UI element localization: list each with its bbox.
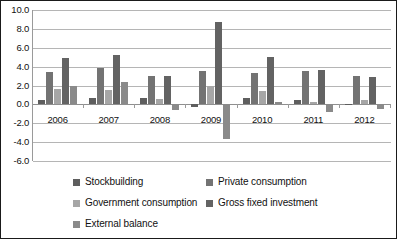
legend-row: StockbuildingPrivate consumption <box>1 173 398 194</box>
legend-swatch-icon <box>73 179 80 186</box>
bar[interactable] <box>318 70 325 104</box>
x-tick-label: 2008 <box>134 115 185 125</box>
y-tick-label: 10.0 <box>11 5 29 15</box>
x-tick <box>390 104 391 108</box>
bar[interactable] <box>164 76 171 104</box>
bar[interactable] <box>361 100 368 105</box>
legend-item[interactable]: Government consumption <box>73 198 197 208</box>
chart-legend: StockbuildingPrivate consumptionGovernme… <box>1 173 398 239</box>
bar[interactable] <box>275 102 282 105</box>
bar[interactable] <box>199 71 206 104</box>
bar[interactable] <box>267 57 274 104</box>
bar[interactable] <box>326 104 333 112</box>
x-tick <box>83 104 84 108</box>
bar[interactable] <box>46 72 53 104</box>
bar[interactable] <box>243 98 250 105</box>
legend-row: External balance <box>1 215 398 236</box>
y-tick-label: -2.0 <box>13 118 29 128</box>
legend-row: Government consumptionGross fixed invest… <box>1 194 398 215</box>
bar-group <box>289 10 340 161</box>
bar[interactable] <box>121 82 128 105</box>
bar-group <box>340 10 391 161</box>
bar[interactable] <box>207 86 214 105</box>
bar[interactable] <box>97 68 104 105</box>
bar[interactable] <box>140 98 147 105</box>
bar[interactable] <box>38 100 45 105</box>
bar[interactable] <box>54 89 61 104</box>
plot-area-wrapper: 10.08.06.04.02.00.0-2.0-4.0-6.0 20062007… <box>1 1 398 171</box>
legend-swatch-icon <box>73 221 80 228</box>
x-tick <box>185 104 186 108</box>
bar-groups <box>33 10 391 161</box>
bar[interactable] <box>89 98 96 105</box>
bar[interactable] <box>251 73 258 104</box>
x-tick-label: 2012 <box>339 115 390 125</box>
y-tick-label: 8.0 <box>16 24 29 34</box>
legend-swatch-icon <box>206 200 213 207</box>
legend-swatch-icon <box>73 200 80 207</box>
bar[interactable] <box>148 76 155 104</box>
bar[interactable] <box>302 71 309 104</box>
legend-swatch-icon <box>206 179 213 186</box>
x-tick-label: 2006 <box>32 115 83 125</box>
bar-group <box>135 10 186 161</box>
gridline <box>33 161 391 162</box>
bar[interactable] <box>259 91 266 104</box>
x-tick <box>339 104 340 108</box>
y-tick-label: 0.0 <box>16 99 29 109</box>
legend-item[interactable]: External balance <box>73 219 158 229</box>
x-tick <box>134 104 135 108</box>
legend-item[interactable]: Stockbuilding <box>73 177 143 187</box>
y-tick-label: 6.0 <box>16 43 29 53</box>
bar-group <box>238 10 289 161</box>
legend-label: Stockbuilding <box>85 177 143 187</box>
bar-group <box>33 10 84 161</box>
y-tick-label: -4.0 <box>13 137 29 147</box>
bar[interactable] <box>105 90 112 104</box>
bar[interactable] <box>310 102 317 104</box>
bar[interactable] <box>70 86 77 104</box>
bar[interactable] <box>377 104 384 109</box>
bar[interactable] <box>156 99 163 105</box>
legend-label: Gross fixed investment <box>218 198 318 208</box>
x-tick-label: 2009 <box>185 115 236 125</box>
bar[interactable] <box>345 104 352 105</box>
bar[interactable] <box>215 22 222 104</box>
y-axis: 10.08.06.04.02.00.0-2.0-4.0-6.0 <box>1 1 31 171</box>
bar-group <box>84 10 135 161</box>
y-tick-label: 2.0 <box>16 81 29 91</box>
bar[interactable] <box>62 58 69 104</box>
bar[interactable] <box>353 76 360 104</box>
x-tick-label: 2010 <box>237 115 288 125</box>
bar-group <box>186 10 237 161</box>
bar[interactable] <box>113 55 120 104</box>
bar[interactable] <box>191 104 198 107</box>
x-tick-label: 2007 <box>83 115 134 125</box>
x-tick <box>288 104 289 108</box>
chart-figure: 10.08.06.04.02.00.0-2.0-4.0-6.0 20062007… <box>0 0 397 239</box>
plot-area <box>32 10 391 161</box>
x-tick <box>237 104 238 108</box>
legend-item[interactable]: Private consumption <box>206 177 307 187</box>
bar[interactable] <box>294 100 301 105</box>
legend-label: Government consumption <box>85 198 197 208</box>
y-tick-label: 4.0 <box>16 62 29 72</box>
bar[interactable] <box>369 77 376 104</box>
x-tick-label: 2011 <box>288 115 339 125</box>
legend-item[interactable]: Gross fixed investment <box>206 198 318 208</box>
y-tick-label: -6.0 <box>13 156 29 166</box>
legend-label: External balance <box>85 219 158 229</box>
legend-label: Private consumption <box>218 177 307 187</box>
bar[interactable] <box>172 104 179 110</box>
